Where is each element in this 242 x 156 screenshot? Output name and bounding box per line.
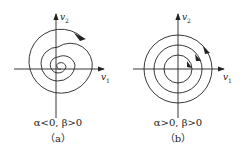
panel-a-x-axis-label: v1: [101, 72, 110, 84]
panel-b-condition: α>0, β>0: [138, 117, 218, 128]
panel-b-y-axis-label: v2: [182, 12, 191, 24]
panel-a-diagram: [14, 14, 104, 118]
panel-a-y-axis-label: v2: [60, 12, 69, 24]
panel-b-diagram: [133, 14, 224, 118]
panel-b-x-axis-label: v1: [223, 72, 232, 84]
panel-b-arrow-outer-icon: [203, 46, 210, 54]
panel-b-caption: （b）: [138, 130, 218, 145]
panel-a-caption: （a）: [18, 130, 98, 145]
panel-a-condition: α<0, β>0: [18, 117, 98, 128]
panel-a-direction-arrow-icon: [74, 33, 86, 41]
